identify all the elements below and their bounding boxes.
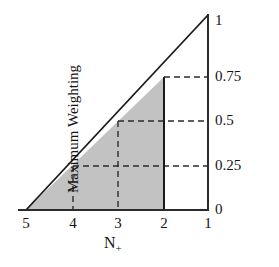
x-tick-label-4: 4 (62, 216, 84, 231)
x-axis-title-subscript: + (116, 242, 122, 254)
y-axis-title: Maximum Weighting (63, 44, 83, 214)
x-tick-label-1: 1 (197, 216, 219, 231)
y-tick-label-0-75: 0.75 (215, 69, 241, 84)
chart-figure: 1 0.75 0.5 0.25 0 5 4 3 2 1 N+ Maximum W… (0, 0, 279, 267)
x-tick-label-3: 3 (107, 216, 129, 231)
y-tick-label-0-25: 0.25 (215, 158, 241, 173)
x-axis-title: N+ (104, 235, 122, 254)
x-tick-label-5: 5 (15, 216, 37, 231)
shaded-region (26, 77, 164, 210)
x-axis-title-main: N (104, 234, 116, 251)
plot-area (0, 0, 279, 267)
x-tick-label-2: 2 (153, 216, 175, 231)
y-tick-label-0-5: 0.5 (215, 113, 234, 128)
y-tick-label-0: 0 (215, 202, 223, 217)
y-tick-label-1: 1 (215, 13, 223, 28)
